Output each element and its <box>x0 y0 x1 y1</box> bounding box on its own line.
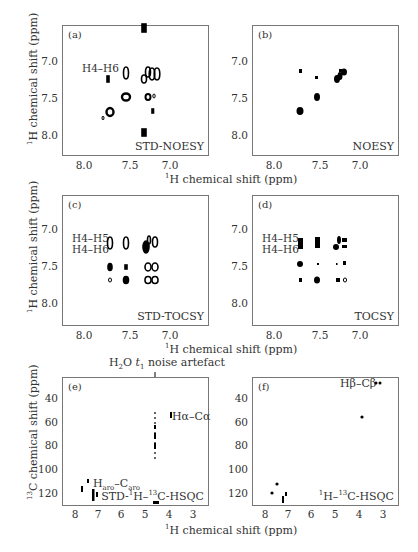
panel-f-peaks <box>0 0 418 552</box>
x-tick: 3 <box>368 508 398 520</box>
x-axis-title-row3: 1H chemical shift (ppm) <box>165 523 297 537</box>
y-tick: 60 <box>218 416 248 428</box>
y-tick: 40 <box>218 392 248 404</box>
y-tick: 80 <box>218 439 248 451</box>
y-axis-title-row3: 13C chemical shift (ppm) <box>26 364 40 500</box>
y-tick: 120 <box>218 487 248 499</box>
y-tick: 100 <box>218 463 248 475</box>
